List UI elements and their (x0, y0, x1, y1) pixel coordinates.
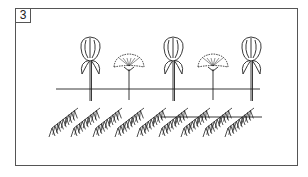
bud-flower (242, 37, 261, 101)
cluster-flower (114, 54, 144, 100)
bud-flower (81, 37, 100, 101)
pine-sprig (49, 108, 78, 137)
bud-flower (164, 37, 183, 101)
cluster-flower (198, 54, 228, 100)
flower-illustration (0, 0, 308, 177)
